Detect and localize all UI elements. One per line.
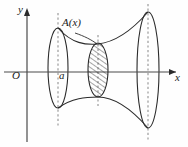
cross-section-disk — [88, 43, 108, 97]
x-axis-label: x — [175, 72, 180, 83]
solid-of-revolution-diagram — [0, 0, 188, 147]
figure-container: y x O a A(x) — [0, 0, 188, 147]
origin-label: O — [12, 70, 20, 81]
y-axis-label: y — [18, 4, 23, 15]
y-axis-arrowhead — [24, 8, 30, 16]
surface-bottom-profile-curve — [58, 97, 148, 128]
cross-section-label: A(x) — [62, 17, 81, 28]
left-bound-label-a: a — [59, 70, 65, 81]
